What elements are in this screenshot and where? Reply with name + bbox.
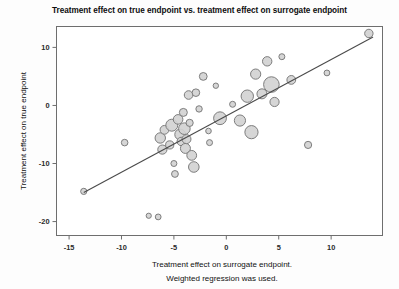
data-point bbox=[264, 77, 280, 93]
x-tick-label: 0 bbox=[224, 243, 228, 252]
y-axis-ticks: 100-10-20 bbox=[39, 43, 57, 226]
data-point bbox=[279, 54, 285, 60]
x-tick-label: 5 bbox=[277, 243, 281, 252]
data-point bbox=[186, 119, 193, 126]
data-point bbox=[365, 29, 373, 37]
data-point bbox=[304, 141, 311, 148]
data-point bbox=[207, 140, 213, 146]
y-tick-label: -20 bbox=[39, 217, 50, 226]
data-point bbox=[171, 161, 177, 167]
data-point bbox=[213, 83, 218, 88]
data-point bbox=[155, 214, 161, 220]
data-point bbox=[324, 70, 330, 76]
y-axis-title: Treatment effect on true endpoint bbox=[19, 71, 28, 190]
scatter-plot: -15-10-50510 100-10-20 Treatment effect … bbox=[0, 0, 399, 289]
data-point bbox=[172, 171, 179, 178]
x-tick-label: -5 bbox=[171, 243, 178, 252]
x-axis-title: Treatment effect on surrogate endpoint. bbox=[152, 260, 292, 269]
y-tick-label: -10 bbox=[39, 159, 50, 168]
data-point bbox=[270, 97, 279, 106]
x-tick-label: -10 bbox=[116, 243, 127, 252]
data-point bbox=[241, 90, 253, 102]
y-tick-label: 0 bbox=[45, 101, 49, 110]
data-point bbox=[234, 115, 245, 126]
y-tick-label: 10 bbox=[41, 43, 49, 52]
data-point bbox=[245, 126, 258, 139]
data-point bbox=[184, 91, 193, 100]
x-tick-label: -15 bbox=[64, 243, 75, 252]
data-point bbox=[262, 57, 271, 66]
x-axis-caption: Weighted regression was used. bbox=[166, 274, 277, 283]
data-point bbox=[187, 150, 197, 160]
data-point bbox=[251, 69, 261, 79]
data-point bbox=[121, 139, 128, 146]
data-point bbox=[206, 128, 212, 134]
data-point bbox=[146, 213, 151, 218]
x-tick-label: 10 bbox=[327, 243, 335, 252]
data-point bbox=[189, 162, 200, 173]
data-point bbox=[214, 112, 227, 125]
data-point bbox=[192, 89, 200, 97]
data-point bbox=[196, 106, 202, 112]
data-point bbox=[199, 73, 207, 81]
data-point bbox=[230, 101, 236, 107]
x-axis-ticks: -15-10-50510 bbox=[64, 236, 336, 252]
data-point bbox=[179, 108, 187, 116]
chart-page: Treatment effect on true endpoint vs. tr… bbox=[0, 0, 399, 289]
